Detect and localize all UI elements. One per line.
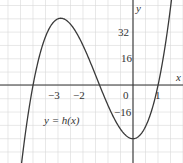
y-tick-label: 32 <box>118 26 129 38</box>
grid-lines <box>0 0 183 163</box>
function-label: y = h(x) <box>43 114 80 127</box>
function-graph: x y −3 −2 0 1 32 16 −16 y = h(x) <box>0 0 183 163</box>
x-tick-label: −3 <box>48 89 60 101</box>
y-axis-label: y <box>135 2 141 14</box>
x-tick-label: 1 <box>155 89 161 101</box>
x-axis-label: x <box>175 71 181 83</box>
x-tick-label: 0 <box>123 89 129 101</box>
y-tick-label: 16 <box>121 52 133 64</box>
x-tick-label: −2 <box>73 89 85 101</box>
y-tick-label: −16 <box>114 106 132 118</box>
